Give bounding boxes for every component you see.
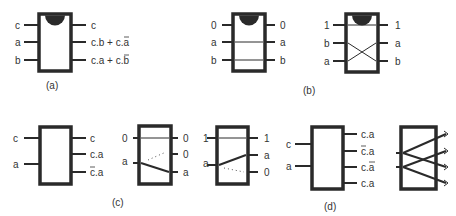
caption-d: (d) — [324, 201, 336, 212]
output-label: 0 — [183, 133, 189, 144]
panel-a: c a b c c.b + c.a c.a + c.b (a) — [15, 14, 130, 91]
panel-c: c a c c.a c.a 0 a 0 0 a 1 a 1 a 0 — [13, 126, 270, 208]
input-label: a — [324, 56, 330, 67]
output-label: b — [395, 56, 401, 67]
input-label: a — [211, 37, 217, 48]
gate-box-control-0 — [139, 126, 171, 184]
input-label-a: a — [15, 37, 21, 48]
output-label: c.a — [90, 167, 104, 178]
output-label: b — [280, 55, 286, 66]
output-label-3: c.a + c.b — [91, 55, 130, 66]
output-label: 0 — [183, 149, 189, 160]
output-label: a — [264, 150, 270, 161]
output-arrow-icons — [444, 131, 448, 186]
input-label: a — [203, 158, 209, 169]
output-label: a — [280, 37, 286, 48]
output-label: a — [395, 38, 401, 49]
panel-b: 0 a b 0 a b 1 b a 1 a b (b) — [211, 14, 401, 96]
output-label: 0 — [264, 167, 270, 178]
output-label: 1 — [395, 20, 401, 31]
output-label: 1 — [264, 133, 270, 144]
panel-d: c a c.a c.a c.a c.a (d) — [286, 127, 448, 212]
input-label: a — [13, 159, 19, 170]
output-label-c: c — [91, 20, 96, 31]
input-label: 0 — [122, 133, 128, 144]
input-label: 1 — [324, 20, 330, 31]
input-label: 0 — [211, 20, 217, 31]
input-label: a — [122, 156, 128, 167]
decoder-block-box — [312, 127, 343, 189]
caption-c: (c) — [112, 197, 124, 208]
output-label: c.a — [361, 146, 375, 157]
input-label: c — [286, 139, 291, 150]
output-label-2: c.b + c.a — [91, 37, 130, 48]
output-label: c.a — [361, 162, 375, 173]
output-label: c — [90, 133, 95, 144]
output-label: c.a — [90, 149, 104, 160]
output-label: a — [183, 167, 189, 178]
and-block-box — [40, 127, 71, 184]
input-label: c — [13, 133, 18, 144]
reversible-logic-diagram: c a b c c.b + c.a c.a + c.b (a) 0 a b 0 … — [0, 0, 456, 216]
output-label: 0 — [280, 20, 286, 31]
input-label: a — [286, 161, 292, 172]
input-label: 1 — [203, 133, 209, 144]
output-label: c.a — [361, 178, 375, 189]
input-label-b: b — [15, 55, 21, 66]
input-label-c: c — [15, 20, 20, 31]
input-label: b — [324, 38, 330, 49]
caption-b: (b) — [303, 85, 315, 96]
input-label: b — [211, 55, 217, 66]
output-label: c.a — [361, 129, 375, 140]
caption-a: (a) — [46, 80, 58, 91]
